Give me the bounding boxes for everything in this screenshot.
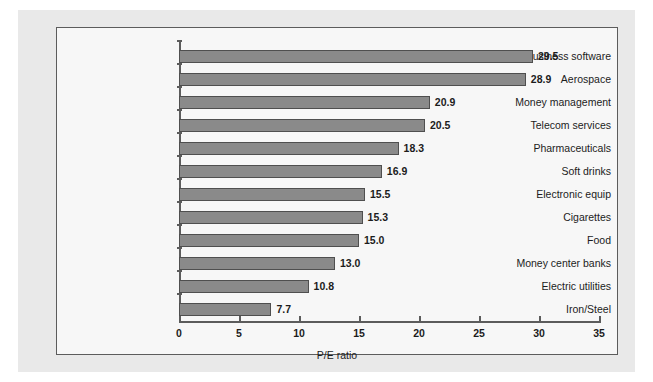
y-axis-tick xyxy=(177,201,182,203)
x-axis-tick-label: 10 xyxy=(279,327,319,339)
bar-container: 20.5 xyxy=(179,114,653,137)
x-axis-tick xyxy=(299,316,301,321)
bar-container: 28.9 xyxy=(179,68,653,91)
bar-value-label: 13.0 xyxy=(335,252,360,275)
x-axis-title: P/E ratio xyxy=(57,349,617,361)
x-axis-tick-label: 0 xyxy=(159,327,199,339)
bar-value-label: 20.5 xyxy=(425,114,450,137)
plot-area: Business software29.5Aerospace28.9Money … xyxy=(57,28,617,354)
x-axis-tick-label: 30 xyxy=(519,327,559,339)
x-axis-tick-label: 35 xyxy=(579,327,619,339)
y-axis-tick xyxy=(177,109,182,111)
bar xyxy=(179,234,359,247)
bar-row: Electronic equip15.5 xyxy=(57,183,617,206)
x-axis-line xyxy=(179,321,601,323)
y-axis-tick xyxy=(177,86,182,88)
y-axis-tick xyxy=(177,293,182,295)
bar-value-label: 15.3 xyxy=(363,206,388,229)
x-axis-tick-label: 20 xyxy=(399,327,439,339)
bar-value-label: 16.9 xyxy=(382,160,407,183)
bar-row: Aerospace28.9 xyxy=(57,68,617,91)
bar-container: 7.7 xyxy=(179,298,653,321)
bar-value-label: 10.8 xyxy=(309,275,334,298)
x-axis-tick-label: 25 xyxy=(459,327,499,339)
y-axis-tick xyxy=(177,224,182,226)
bar-row: Pharmaceuticals18.3 xyxy=(57,137,617,160)
bar xyxy=(179,73,526,86)
x-axis-tick xyxy=(539,316,541,321)
y-axis-tick xyxy=(177,63,182,65)
x-axis-tick xyxy=(599,316,601,321)
y-axis-tick xyxy=(177,40,182,42)
bar-value-label: 7.7 xyxy=(271,298,291,321)
bar xyxy=(179,280,309,293)
bar-row: Iron/Steel7.7 xyxy=(57,298,617,321)
bar xyxy=(179,165,382,178)
x-axis-tick xyxy=(239,316,241,321)
bar-value-label: 28.9 xyxy=(526,68,551,91)
bar-row: Business software29.5 xyxy=(57,45,617,68)
x-axis-tick xyxy=(359,316,361,321)
x-axis-tick xyxy=(419,316,421,321)
y-axis-tick xyxy=(177,270,182,272)
bar xyxy=(179,96,430,109)
bar-container: 10.8 xyxy=(179,275,653,298)
bar-row: Food15.0 xyxy=(57,229,617,252)
bar xyxy=(179,119,425,132)
bar-container: 16.9 xyxy=(179,160,653,183)
y-axis-tick xyxy=(177,155,182,157)
bar-value-label: 18.3 xyxy=(399,137,424,160)
bar-row: Electric utilities10.8 xyxy=(57,275,617,298)
x-axis-tick xyxy=(179,316,181,321)
bar-container: 13.0 xyxy=(179,252,653,275)
bar-container: 29.5 xyxy=(179,45,653,68)
bar xyxy=(179,303,271,316)
page-canvas: Business software29.5Aerospace28.9Money … xyxy=(0,0,653,382)
chart-figure: Business software29.5Aerospace28.9Money … xyxy=(56,27,618,355)
bar xyxy=(179,211,363,224)
bar-row: Money center banks13.0 xyxy=(57,252,617,275)
bar xyxy=(179,188,365,201)
bar-container: 15.0 xyxy=(179,229,653,252)
bar-value-label: 29.5 xyxy=(533,45,558,68)
bar xyxy=(179,50,533,63)
y-axis-tick xyxy=(177,247,182,249)
bar-row: Telecom services20.5 xyxy=(57,114,617,137)
bar-row: Soft drinks16.9 xyxy=(57,160,617,183)
bar-container: 15.5 xyxy=(179,183,653,206)
x-axis-tick xyxy=(479,316,481,321)
bar-container: 18.3 xyxy=(179,137,653,160)
bar-row: Money management20.9 xyxy=(57,91,617,114)
bar-row: Cigarettes15.3 xyxy=(57,206,617,229)
x-axis-tick-label: 5 xyxy=(219,327,259,339)
bar-value-label: 20.9 xyxy=(430,91,455,114)
bar-value-label: 15.0 xyxy=(359,229,384,252)
y-axis-tick xyxy=(177,178,182,180)
x-axis-tick-label: 15 xyxy=(339,327,379,339)
bar xyxy=(179,257,335,270)
bar-value-label: 15.5 xyxy=(365,183,390,206)
y-axis-tick xyxy=(177,132,182,134)
bar-container: 15.3 xyxy=(179,206,653,229)
bar xyxy=(179,142,399,155)
bar-container: 20.9 xyxy=(179,91,653,114)
